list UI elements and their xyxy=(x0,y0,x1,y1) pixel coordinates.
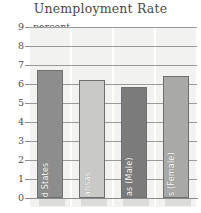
bar-label: Arkansas (Female) xyxy=(167,152,176,198)
x-axis-baseline xyxy=(25,198,198,199)
y-axis-tick-mark xyxy=(25,27,29,28)
y-axis-tick-labels: 9876543210 xyxy=(0,27,24,198)
bar-label: United States xyxy=(41,163,50,198)
bar-shadow xyxy=(123,198,149,206)
gridline xyxy=(29,27,197,28)
bar[interactable]: United States xyxy=(37,70,63,198)
bar-label: Arkansas (Male) xyxy=(125,157,134,198)
bar[interactable]: Arkansas (Male) xyxy=(121,87,147,198)
bar-shadow xyxy=(165,198,191,206)
y-axis-tick-label: 5 xyxy=(2,98,24,108)
gridline xyxy=(29,46,197,47)
y-axis-tick-label: 6 xyxy=(2,79,24,89)
y-axis-tick-label: 7 xyxy=(2,60,24,70)
y-axis-tick-label: 3 xyxy=(2,136,24,146)
plot-area: United StatesArkansasArkansas (Male)Arka… xyxy=(29,27,197,198)
y-axis-tick-mark xyxy=(25,179,29,180)
bar-label: Arkansas xyxy=(83,172,92,198)
y-axis-tick-mark xyxy=(25,46,29,47)
y-axis-tick-label: 4 xyxy=(2,117,24,127)
gridline xyxy=(29,65,197,66)
y-axis-tick-label: 0 xyxy=(2,193,24,203)
y-axis-tick-label: 1 xyxy=(2,174,24,184)
y-axis-tick-mark xyxy=(25,198,29,199)
y-axis-tick-mark xyxy=(25,122,29,123)
y-axis-tick-mark xyxy=(25,160,29,161)
bar[interactable]: Arkansas xyxy=(79,80,105,198)
bar[interactable]: Arkansas (Female) xyxy=(163,76,189,198)
y-axis-tick-label: 2 xyxy=(2,155,24,165)
y-axis-tick-mark xyxy=(25,141,29,142)
y-axis-tick-mark xyxy=(25,84,29,85)
y-axis-tick-mark xyxy=(25,65,29,66)
bar-shadow xyxy=(81,198,107,206)
y-axis-tick-label: 9 xyxy=(2,22,24,32)
y-axis-tick-mark xyxy=(25,103,29,104)
bar-shadow xyxy=(39,198,65,206)
chart-title: Unemployment Rate xyxy=(0,1,201,16)
unemployment-rate-chart: Unemployment Rate 9876543210 percent Uni… xyxy=(0,0,201,213)
y-axis-tick-label: 8 xyxy=(2,41,24,51)
